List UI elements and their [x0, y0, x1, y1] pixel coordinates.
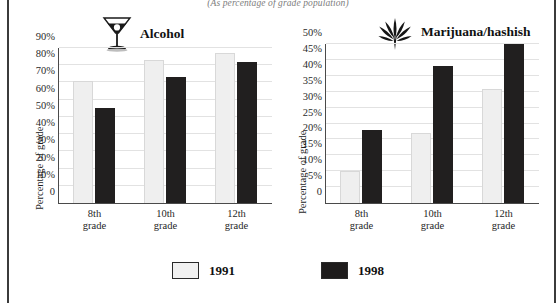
y-axis-tick-label: 90%: [36, 31, 55, 42]
legend-swatch-dark: [321, 262, 348, 279]
bar-marijuana-1998-1[interactable]: [433, 66, 453, 203]
bars: [59, 48, 130, 203]
x-axis-tick-label: 10thgrade: [154, 208, 177, 231]
bars: [468, 44, 539, 203]
y-axis-tick-label: 35%: [303, 75, 322, 86]
bar-alcohol-1991-1[interactable]: [144, 60, 164, 203]
bar-marijuana-1991-0[interactable]: [340, 171, 360, 203]
bar-marijuana-1991-1[interactable]: [411, 133, 431, 203]
y-axis-tick-label: 15%: [303, 139, 322, 150]
plot-area-alcohol: 010%20%30%40%50%60%70%80%90%8thgrade10th…: [58, 48, 272, 204]
bars: [201, 48, 272, 203]
panel-title-alcohol: Alcohol: [140, 26, 184, 42]
bars: [397, 44, 468, 203]
chart-subtitle: (As percentage of grade population): [0, 0, 556, 8]
x-axis-tick-label: 8thgrade: [83, 208, 106, 231]
y-axis-tick-label: 10%: [303, 154, 322, 165]
bar-group-marijuana-0: 8thgrade: [326, 44, 397, 203]
chart-panel-marijuana: Marijuana/hashish Percentage of grade 05…: [283, 14, 541, 242]
y-axis-tick-label: 0: [317, 186, 322, 197]
y-axis-tick-label: 0: [50, 186, 55, 197]
y-axis-tick-label: 10%: [36, 169, 55, 180]
y-axis-tick-label: 50%: [303, 27, 322, 38]
legend-item-1998: 1998: [321, 262, 384, 279]
bar-group-alcohol-1: 10thgrade: [130, 48, 201, 203]
bar-marijuana-1998-0[interactable]: [362, 130, 382, 203]
y-axis-tick-label: 70%: [36, 66, 55, 77]
y-axis-tick-label: 5%: [308, 170, 322, 181]
bar-alcohol-1998-2[interactable]: [237, 62, 257, 203]
chart-panel-alcohol: Alcohol Percentage of grade 010%20%30%40…: [22, 14, 274, 242]
legend-label-1998: 1998: [358, 263, 384, 279]
bar-group-marijuana-2: 12thgrade: [468, 44, 539, 203]
y-axis-tick-label: 45%: [303, 43, 322, 54]
panel-title-marijuana: Marijuana/hashish: [421, 24, 531, 40]
plot-area-marijuana: 05%10%15%20%25%30%35%40%45%50%8thgrade10…: [325, 44, 539, 204]
y-axis-tick-label: 80%: [36, 49, 55, 60]
y-axis-tick-label: 40%: [303, 59, 322, 70]
x-axis-tick-label: 12thgrade: [492, 208, 515, 231]
legend-swatch-light: [172, 262, 199, 279]
bar-marijuana-1998-2[interactable]: [504, 44, 524, 203]
bar-alcohol-1991-2[interactable]: [215, 53, 235, 203]
bar-alcohol-1991-0[interactable]: [73, 81, 93, 203]
bar-alcohol-1998-1[interactable]: [166, 77, 186, 203]
legend-item-1991: 1991: [172, 262, 235, 279]
page-left-rule: [7, 0, 9, 303]
chart-legend: 1991 1998: [0, 262, 556, 279]
bar-alcohol-1998-0[interactable]: [95, 108, 115, 203]
y-axis-tick-label: 50%: [36, 100, 55, 111]
y-axis-tick-label: 25%: [303, 107, 322, 118]
x-axis-tick-label: 8thgrade: [350, 208, 373, 231]
y-axis-tick-label: 20%: [303, 123, 322, 134]
bars: [326, 44, 397, 203]
bar-marijuana-1991-2[interactable]: [482, 89, 502, 203]
y-axis-tick-label: 30%: [36, 135, 55, 146]
y-axis-tick-label: 60%: [36, 83, 55, 94]
x-axis-tick-label: 12thgrade: [225, 208, 248, 231]
y-axis-tick-label: 40%: [36, 117, 55, 128]
bar-group-marijuana-1: 10thgrade: [397, 44, 468, 203]
bar-group-alcohol-2: 12thgrade: [201, 48, 272, 203]
y-axis-tick-label: 20%: [36, 152, 55, 163]
y-axis-tick-label: 30%: [303, 91, 322, 102]
x-axis-tick-label: 10thgrade: [421, 208, 444, 231]
bars: [130, 48, 201, 203]
bar-group-alcohol-0: 8thgrade: [59, 48, 130, 203]
legend-label-1991: 1991: [209, 263, 235, 279]
